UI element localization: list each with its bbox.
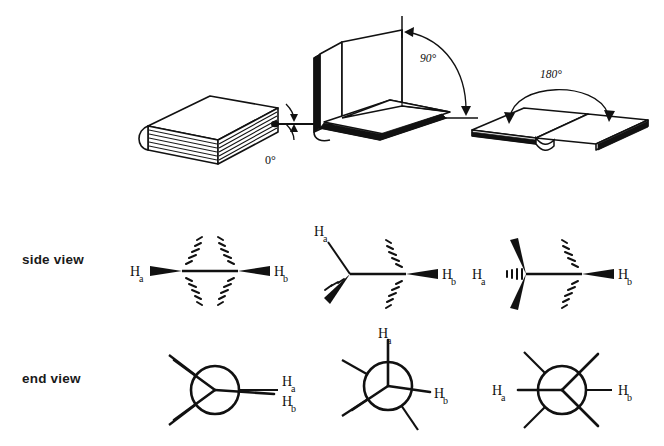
side-anti-hb-sub: b [627,276,632,287]
angle-text-0: 0° [265,153,276,167]
side-anti-ha-sub: a [481,276,486,287]
newman-eclipsed-ha-sub: a [291,383,296,394]
newman-projection-anti: H a H b [492,342,648,438]
newman-gauche-hb-sub: b [443,395,448,406]
row-label-side-view: side view [22,252,84,267]
angle-text-90: 90° [420,52,437,64]
book-illustration-anti: 180° [462,52,658,158]
figure-canvas: side view end view [0,0,664,446]
side-eclipsed-hb-sub: b [283,273,288,284]
side-gauche-ha-sub: a [323,233,328,244]
newman-gauche-ha-sub: a [387,335,392,346]
side-view-anti: H a H b [470,226,636,316]
book-illustration-eclipsed [118,78,318,188]
angle-text-180: 180° [540,68,562,80]
side-view-gauche: H a H b [300,222,462,316]
newman-projection-eclipsed: H a H b [160,342,310,438]
newman-projection-gauche: H a H b [330,330,480,438]
newman-anti-ha-sub: a [501,392,506,403]
angle-label-0: 0° [263,148,303,170]
side-gauche-hb-sub: b [451,276,456,287]
book-illustration-gauche: 90° [296,14,486,144]
side-view-eclipsed: H a H b [130,228,290,314]
newman-eclipsed-hb-sub: b [291,403,296,414]
row-label-end-view: end view [22,371,81,386]
side-eclipsed-ha-sub: a [139,273,144,284]
newman-anti-hb-sub: b [627,392,632,403]
